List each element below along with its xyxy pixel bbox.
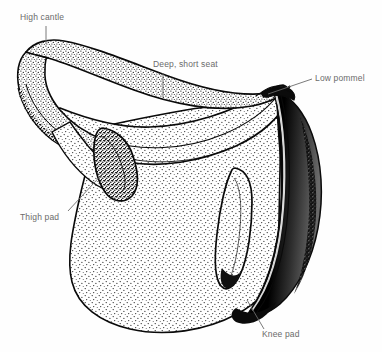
label-high-cantle: High cantle — [20, 13, 64, 22]
figure-canvas: High cantle Deep, short seat Low pommel … — [0, 0, 382, 352]
label-knee-pad: Knee pad — [262, 330, 300, 339]
label-low-pommel: Low pommel — [315, 74, 365, 83]
label-deep-short-seat: Deep, short seat — [153, 60, 218, 69]
label-thigh-pad: Thigh pad — [20, 213, 59, 222]
saddle-illustration — [0, 0, 382, 352]
